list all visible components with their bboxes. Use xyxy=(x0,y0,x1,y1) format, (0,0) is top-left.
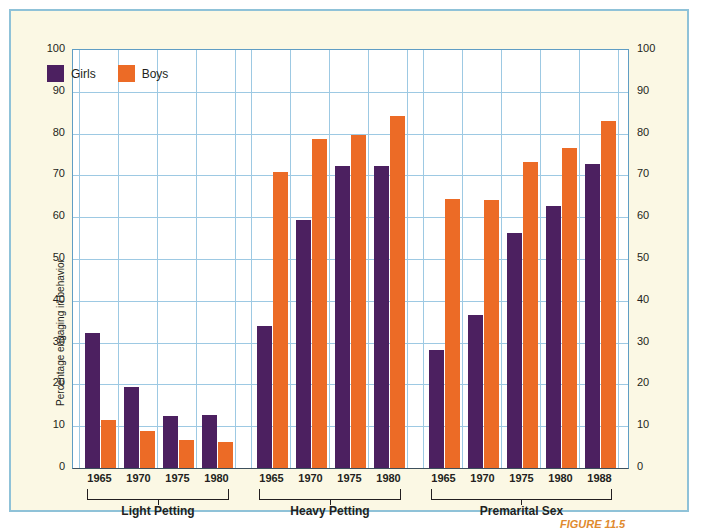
vertical-gridline xyxy=(368,50,369,468)
y-axis-tick-label: 30 xyxy=(637,336,649,347)
bar-girls xyxy=(429,350,444,468)
x-axis-group-label: Light Petting xyxy=(87,504,229,518)
y-axis-tick-label: 60 xyxy=(637,210,649,221)
bar-girls xyxy=(257,326,272,468)
group-bracket-icon xyxy=(259,489,401,500)
y-axis-tick-label: 50 xyxy=(637,252,649,263)
x-axis-tick-label: 1970 xyxy=(298,472,322,484)
legend-label-girls: Girls xyxy=(71,67,96,81)
y-axis-tick-label: 60 xyxy=(53,210,65,221)
bar-boys xyxy=(140,431,155,468)
y-axis-tick-label: 0 xyxy=(59,461,65,472)
legend-item-boys: Boys xyxy=(118,65,169,82)
vertical-gridline xyxy=(329,50,330,468)
bar-girls xyxy=(85,333,100,468)
bar-boys xyxy=(523,162,538,468)
y-axis-tick-label: 90 xyxy=(637,85,649,96)
bar-boys xyxy=(179,440,194,468)
x-axis-tick-label: 1965 xyxy=(259,472,283,484)
y-axis-tick-label: 50 xyxy=(53,252,65,263)
bar-boys xyxy=(101,420,116,468)
bar-boys xyxy=(445,199,460,468)
y-axis-right-ticks: 0102030405060708090100 xyxy=(637,49,673,467)
x-axis-tick-label: 1975 xyxy=(165,472,189,484)
group-bracket-icon xyxy=(431,489,612,500)
y-axis-left-ticks: 0102030405060708090100 xyxy=(33,49,65,467)
x-axis-tick-label: 1980 xyxy=(376,472,400,484)
bar-boys xyxy=(390,116,405,468)
x-axis-group-label: Heavy Petting xyxy=(259,504,401,518)
x-axis-tick-label: 1965 xyxy=(431,472,455,484)
x-axis-tick-label: 1975 xyxy=(509,472,533,484)
bar-girls xyxy=(124,387,139,468)
x-axis-tick-label: 1980 xyxy=(204,472,228,484)
y-axis-tick-label: 70 xyxy=(637,168,649,179)
y-axis-tick-label: 90 xyxy=(53,85,65,96)
bar-girls xyxy=(507,233,522,468)
vertical-gridline xyxy=(251,50,252,468)
vertical-gridline xyxy=(618,50,619,468)
vertical-gridline xyxy=(118,50,119,468)
y-axis-tick-label: 40 xyxy=(637,294,649,305)
vertical-gridline xyxy=(540,50,541,468)
vertical-gridline xyxy=(579,50,580,468)
vertical-gridline xyxy=(79,50,80,468)
y-axis-tick-label: 70 xyxy=(53,168,65,179)
bar-boys xyxy=(218,442,233,468)
y-axis-tick-label: 20 xyxy=(637,377,649,388)
figure-caption: FIGURE 11.5 xyxy=(560,518,625,529)
bar-girls xyxy=(296,220,311,468)
y-axis-tick-label: 40 xyxy=(53,294,65,305)
vertical-gridline xyxy=(407,50,408,468)
vertical-gridline xyxy=(462,50,463,468)
bar-boys xyxy=(273,172,288,468)
bar-girls xyxy=(546,206,561,468)
x-axis-group-label: Premarital Sex xyxy=(431,504,612,518)
legend-label-boys: Boys xyxy=(142,67,169,81)
bar-girls xyxy=(335,166,350,468)
x-axis-tick-label: 1975 xyxy=(337,472,361,484)
legend-swatch-boys-icon xyxy=(118,65,135,82)
bar-boys xyxy=(351,135,366,468)
y-axis-tick-label: 10 xyxy=(53,419,65,430)
vertical-gridline xyxy=(157,50,158,468)
plot-area xyxy=(72,49,629,469)
group-bracket-icon xyxy=(87,489,229,500)
x-axis-tick-label: 1970 xyxy=(470,472,494,484)
bar-boys xyxy=(484,200,499,468)
y-axis-tick-label: 100 xyxy=(47,43,65,54)
x-axis-tick-label: 1980 xyxy=(548,472,572,484)
x-axis-tick-label: 1988 xyxy=(587,472,611,484)
x-axis-group-brackets: Light PettingHeavy PettingPremarital Sex xyxy=(72,489,629,517)
x-axis-tick-labels: 1965197019751980196519701975198019651970… xyxy=(72,472,629,488)
vertical-gridline xyxy=(501,50,502,468)
y-axis-tick-label: 10 xyxy=(637,419,649,430)
x-axis-tick-label: 1965 xyxy=(87,472,111,484)
y-axis-tick-label: 80 xyxy=(53,127,65,138)
bar-girls xyxy=(202,415,217,468)
bar-girls xyxy=(163,416,178,468)
figure-panel: Percentage engaging in behavior 01020304… xyxy=(9,9,689,512)
y-axis-tick-label: 80 xyxy=(637,127,649,138)
y-axis-tick-label: 20 xyxy=(53,377,65,388)
bar-girls xyxy=(374,166,389,468)
bar-boys xyxy=(562,148,577,468)
legend-swatch-girls-icon xyxy=(47,65,64,82)
vertical-gridline xyxy=(235,50,236,468)
bar-boys xyxy=(312,139,327,468)
vertical-gridline xyxy=(290,50,291,468)
legend-item-girls: Girls xyxy=(47,65,96,82)
x-axis-tick-label: 1970 xyxy=(126,472,150,484)
y-axis-tick-label: 100 xyxy=(637,43,655,54)
bar-girls xyxy=(585,164,600,468)
y-axis-tick-label: 0 xyxy=(637,461,643,472)
bar-boys xyxy=(601,121,616,468)
vertical-gridline xyxy=(423,50,424,468)
bar-girls xyxy=(468,315,483,468)
chart-legend: Girls Boys xyxy=(47,65,168,82)
y-axis-tick-label: 30 xyxy=(53,336,65,347)
vertical-gridline xyxy=(196,50,197,468)
